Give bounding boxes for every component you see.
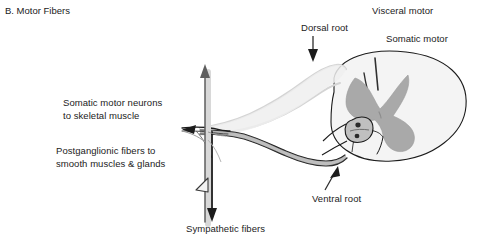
dorsal-root-leader-arrowhead [308,49,318,62]
label-sympathetic-fibers: Sympathetic fibers [186,223,265,236]
ganglion-cell-lower [355,134,360,138]
label-somatic-motor-neurons: Somatic motor neurons to skeletal muscle [63,97,162,122]
label-somatic-motor: Somatic motor [386,33,448,46]
label-dorsal-root: Dorsal root [301,22,348,35]
dorsal-root [200,65,346,136]
label-ventral-root: Ventral root [312,193,361,206]
ventral-root-leader-arrowhead [330,166,340,178]
label-visceral-motor: Visceral motor [372,5,433,18]
label-postganglionic-fibers: Postganglionic fibers to smooth muscles … [56,145,165,170]
postganglionic-open-arrowhead [196,178,208,192]
dorsal-root-fill [200,65,346,136]
ganglion-cell-upper [355,123,360,128]
spinal-cord-cross-section [331,51,466,161]
motor-fibers-figure: B. Motor Fibers [0,0,481,239]
sympathetic-fiber-trunk [182,64,226,224]
